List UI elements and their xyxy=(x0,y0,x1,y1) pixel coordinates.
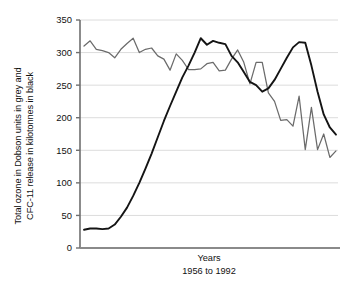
y-axis-tick-label: 300 xyxy=(56,47,72,58)
line-chart-plot: 050100150200250300350 xyxy=(0,0,347,292)
x-axis-title: Years 1956 to 1992 xyxy=(80,252,338,277)
y-axis-tick-label: 100 xyxy=(56,177,72,188)
y-axis-tick-label: 0 xyxy=(67,242,72,253)
series-line-ozone xyxy=(84,38,336,157)
y-axis-ticks-group: 050100150200250300350 xyxy=(56,14,80,253)
gridlines-group xyxy=(80,20,338,215)
chart-container: Total ozone in Dobson units in grey and … xyxy=(0,0,347,292)
y-axis-tick-label: 50 xyxy=(62,210,72,221)
y-axis-tick-label: 200 xyxy=(56,112,72,123)
y-axis-tick-label: 350 xyxy=(56,14,72,25)
y-axis-tick-label: 250 xyxy=(56,80,72,91)
data-series-group xyxy=(84,38,336,230)
y-axis-tick-label: 150 xyxy=(56,145,72,156)
series-line-cfc11 xyxy=(84,38,336,230)
